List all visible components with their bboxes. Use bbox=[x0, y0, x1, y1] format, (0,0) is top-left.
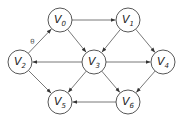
edge-v1-v4 bbox=[136, 29, 155, 52]
node-v0: V0 bbox=[48, 8, 72, 32]
node-v1: V1 bbox=[116, 8, 140, 32]
node-subscript: 2 bbox=[22, 62, 27, 70]
node-v2: V2 bbox=[8, 50, 32, 74]
edge-v2-v5 bbox=[28, 70, 51, 93]
node-subscript: 4 bbox=[165, 62, 169, 70]
node-v4: V4 bbox=[151, 50, 175, 74]
edge-label: θ bbox=[30, 38, 34, 46]
node-subscript: 1 bbox=[130, 20, 134, 28]
edge-v1-v3 bbox=[102, 29, 121, 52]
edge-v4-v6 bbox=[136, 71, 155, 93]
edge-v3-v5 bbox=[68, 71, 86, 92]
node-v3: V3 bbox=[82, 50, 106, 74]
node-subscript: 0 bbox=[62, 20, 67, 28]
node-subscript: 6 bbox=[130, 102, 135, 110]
edge-v0-v3 bbox=[68, 29, 87, 52]
node-subscript: 3 bbox=[96, 62, 100, 70]
node-subscript: 5 bbox=[62, 102, 67, 110]
node-v6: V6 bbox=[116, 90, 140, 114]
edge-v3-v6 bbox=[102, 71, 120, 92]
directed-graph: θ V0V1V2V3V4V5V6 bbox=[0, 0, 185, 119]
nodes: V0V1V2V3V4V5V6 bbox=[8, 8, 175, 114]
node-v5: V5 bbox=[48, 90, 72, 114]
